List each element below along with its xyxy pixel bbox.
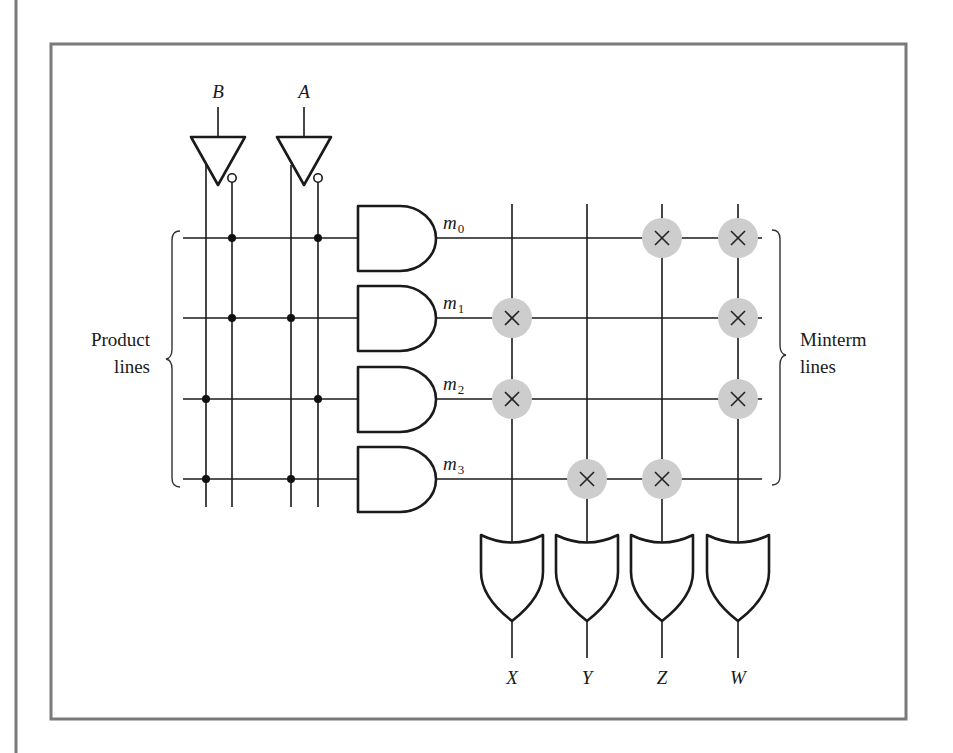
annotations: ProductlinesMintermlines [91,230,867,487]
connection-dot [202,395,210,403]
product-lines-brace [166,231,180,487]
connection-dot [287,475,295,483]
connection-dot [314,234,322,242]
connection-dot [287,314,295,322]
or-gate-icon [631,535,693,621]
output-label-X: X [505,667,519,688]
minterm-label-1: m1 [443,292,464,316]
connection-dot [202,475,210,483]
and-gate-icon [358,286,436,351]
minterm-label-2: m2 [443,373,464,397]
minterm-lines-label-1: Minterm [800,329,867,350]
minterm-lines-label-2: lines [800,356,836,377]
minterm-label-3: m3 [443,453,464,477]
inversion-bubble-icon [228,174,236,182]
inversion-bubble-icon [314,174,322,182]
connection-dot [228,314,236,322]
minterm-label-0: m0 [443,212,464,236]
inputs-layer: BA [191,81,331,507]
figure-frame [51,44,906,719]
output-label-Y: Y [582,667,595,688]
and-gate-icon [358,206,436,271]
product-lines-label-1: Product [91,329,151,350]
output-label-W: W [730,667,748,688]
or-gate-icon [707,535,769,621]
pla-diagram: BA m0m1m2m3 XYZW ProductlinesMintermline… [0,0,953,753]
and-gate-icon [358,447,436,512]
and-gate-icon [358,367,436,432]
minterm-lines-brace [772,230,786,485]
connection-dot [228,234,236,242]
or-array: XYZW [481,204,769,688]
or-gate-icon [481,535,543,621]
or-gate-icon [556,535,618,621]
input-label-B: B [212,81,224,102]
connection-dot [314,395,322,403]
output-label-Z: Z [657,667,668,688]
product-lines-label-2: lines [114,356,150,377]
input-label-A: A [296,81,310,102]
